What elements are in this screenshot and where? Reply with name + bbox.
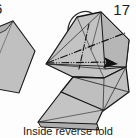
origami-diagram (0, 0, 136, 138)
figure-caption: Inside reverse fold (0, 125, 136, 137)
previous-figure-fragment (0, 21, 35, 93)
origami-step-figure: 6 17 (0, 0, 136, 138)
main-model-body (38, 12, 129, 130)
previous-figure-body (0, 21, 35, 93)
